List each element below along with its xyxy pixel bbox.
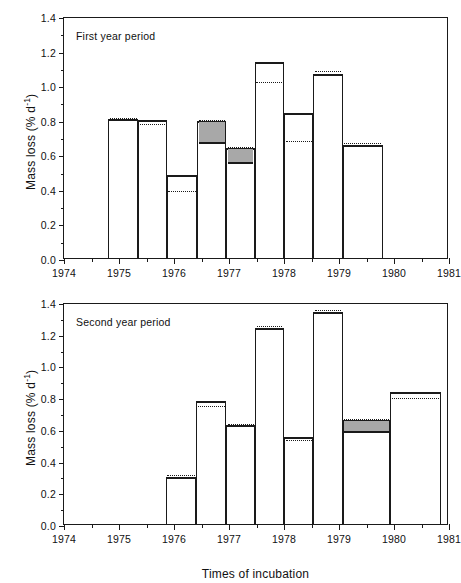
bar-dotted-reference-line	[392, 398, 440, 399]
x-axis-tick	[284, 258, 285, 264]
bar-shaded-band	[199, 121, 225, 144]
bar	[167, 175, 197, 258]
y-axis-tick	[59, 367, 64, 368]
y-axis-tick	[59, 87, 64, 88]
x-axis-tick-label: 1979	[327, 533, 351, 545]
bar	[196, 401, 226, 524]
y-axis-tick-label: 1.4	[41, 298, 56, 310]
bar	[255, 328, 284, 524]
y-axis-minor-tick	[61, 243, 64, 244]
bar-dotted-reference-line	[344, 419, 388, 420]
plot-area-first-year: First year period 0.00.20.40.60.81.01.21…	[63, 17, 448, 259]
x-axis-tick	[229, 258, 230, 264]
bar	[108, 119, 138, 258]
x-axis-tick-label: 1977	[217, 267, 241, 279]
panel-second-year-period: Second year period 0.00.20.40.60.81.01.2…	[0, 290, 458, 583]
y-axis-tick-label: 1.0	[41, 81, 56, 93]
y-axis-tick	[59, 336, 64, 337]
y-axis-minor-tick	[61, 104, 64, 105]
bar-shaded-band	[228, 148, 254, 164]
bar-dotted-reference-line	[344, 143, 381, 144]
y-axis-tick	[59, 53, 64, 54]
x-axis-tick	[449, 524, 450, 530]
x-axis-minor-tick	[92, 524, 93, 528]
y-axis-tick	[59, 191, 64, 192]
y-axis-minor-tick	[61, 447, 64, 448]
bar	[226, 148, 255, 258]
y-axis-tick	[59, 431, 64, 432]
x-axis-tick-label: 1981	[437, 533, 461, 545]
x-axis-tick-label: 1980	[382, 533, 406, 545]
x-axis-minor-tick	[367, 524, 368, 528]
y-axis-tick-label: 0.6	[41, 425, 56, 437]
bars-container-first-year	[64, 18, 447, 258]
bar	[313, 312, 343, 524]
bar	[313, 74, 343, 258]
x-axis-minor-tick	[147, 258, 148, 262]
x-axis-minor-tick	[147, 524, 148, 528]
bar	[284, 113, 313, 258]
x-axis-tick	[284, 524, 285, 530]
bar	[390, 392, 441, 524]
y-axis-tick-label: 0.8	[41, 116, 56, 128]
bar-dotted-reference-line	[228, 147, 254, 148]
bar-dotted-reference-line	[198, 406, 225, 407]
x-axis-minor-tick	[422, 258, 423, 262]
y-axis-tick	[59, 122, 64, 123]
bar-dotted-reference-line	[286, 440, 312, 441]
bar-dotted-reference-line	[286, 141, 312, 142]
x-axis-tick-label: 1976	[162, 267, 186, 279]
y-axis-minor-tick	[61, 174, 64, 175]
x-axis-tick-label: 1974	[52, 533, 76, 545]
x-axis-tick	[394, 258, 395, 264]
bar	[284, 437, 313, 524]
bar-dotted-reference-line	[315, 310, 342, 311]
bars-container-second-year	[64, 304, 447, 524]
y-axis-minor-tick	[61, 208, 64, 209]
x-axis-tick-label: 1978	[272, 533, 296, 545]
y-axis-minor-tick	[61, 415, 64, 416]
y-axis-minor-tick	[61, 35, 64, 36]
y-axis-tick-label: 0.8	[41, 393, 56, 405]
bar-dotted-reference-line	[110, 118, 137, 119]
y-axis-label-tail: )	[24, 370, 38, 374]
y-axis-tick	[59, 463, 64, 464]
y-axis-minor-tick	[61, 383, 64, 384]
y-axis-label-exponent: -1	[22, 374, 32, 382]
x-axis-minor-tick	[257, 524, 258, 528]
x-axis-tick	[174, 258, 175, 264]
y-axis-tick-label: 0.2	[41, 488, 56, 500]
y-axis-tick-label: 1.0	[41, 361, 56, 373]
x-axis-minor-tick	[422, 524, 423, 528]
y-axis-tick-label: 1.4	[41, 12, 56, 24]
bar-dotted-reference-line	[315, 71, 342, 72]
x-axis-tick-label: 1981	[437, 267, 461, 279]
y-axis-minor-tick	[61, 320, 64, 321]
x-axis-tick-label: 1975	[107, 267, 131, 279]
y-axis-tick-label: 0.4	[41, 185, 56, 197]
x-axis-tick	[449, 258, 450, 264]
x-axis-minor-tick	[257, 258, 258, 262]
x-axis-tick	[229, 524, 230, 530]
y-axis-tick	[59, 18, 64, 19]
y-axis-label-exponent: -1	[22, 98, 32, 106]
panel-first-year-period: First year period 0.00.20.40.60.81.01.21…	[0, 0, 458, 295]
bar	[255, 62, 284, 258]
y-axis-tick-label: 0.6	[41, 150, 56, 162]
y-axis-tick-label: 1.2	[41, 330, 56, 342]
y-axis-tick-label: 0.0	[41, 520, 56, 532]
x-axis-minor-tick	[367, 258, 368, 262]
bar-dotted-reference-line	[257, 326, 283, 327]
bar	[138, 120, 167, 258]
x-axis-tick-label: 1974	[52, 267, 76, 279]
x-axis-tick	[394, 524, 395, 530]
bar-dotted-reference-line	[140, 124, 166, 125]
x-axis-tick	[64, 524, 65, 530]
x-axis-minor-tick	[312, 524, 313, 528]
x-axis-tick	[64, 258, 65, 264]
y-axis-tick	[59, 225, 64, 226]
bar	[343, 145, 383, 258]
bar	[226, 425, 255, 524]
y-axis-minor-tick	[61, 478, 64, 479]
